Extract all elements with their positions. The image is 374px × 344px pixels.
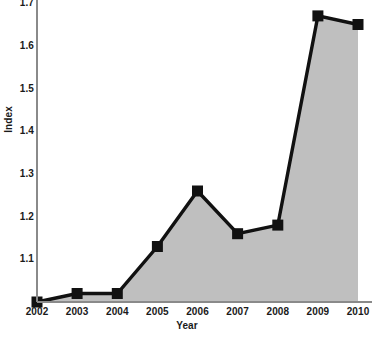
- y-axis-tick-label: 1.7: [0, 0, 34, 8]
- data-point-marker: [272, 220, 283, 231]
- y-axis-tick-label: 1.5: [0, 84, 34, 94]
- x-axis-tick-label: 2009: [295, 306, 341, 317]
- data-point-marker: [312, 10, 323, 21]
- x-axis-tick-label: 2006: [175, 306, 221, 317]
- x-axis-tick-label: 2010: [335, 306, 374, 317]
- x-axis-tick-label: 2003: [54, 306, 100, 317]
- data-point-marker: [192, 186, 203, 197]
- x-axis-tick-label: 2004: [94, 306, 140, 317]
- data-point-marker: [353, 19, 364, 30]
- y-axis-tick-label: 1.1: [0, 254, 34, 264]
- y-axis-tick-labels: 1.71.61.51.41.31.21.1: [0, 0, 34, 344]
- x-axis-tick-label: 2002: [14, 306, 60, 317]
- x-axis-title: Year: [0, 320, 374, 331]
- x-axis-tick-label: 2007: [215, 306, 261, 317]
- y-axis-tick-label: 1.6: [0, 41, 34, 51]
- y-axis-tick-label: 1.2: [0, 212, 34, 222]
- data-point-marker: [232, 228, 243, 239]
- data-point-marker: [112, 288, 123, 299]
- data-point-marker: [72, 288, 83, 299]
- y-axis-title: Index: [3, 96, 14, 144]
- chart-container: 1.71.61.51.41.31.21.1 200220032004200520…: [0, 0, 374, 344]
- x-axis-tick-label: 2008: [255, 306, 301, 317]
- data-point-marker: [152, 241, 163, 252]
- chart-plot-area: [0, 0, 374, 344]
- x-axis-tick-label: 2005: [134, 306, 180, 317]
- y-axis-tick-label: 1.3: [0, 169, 34, 179]
